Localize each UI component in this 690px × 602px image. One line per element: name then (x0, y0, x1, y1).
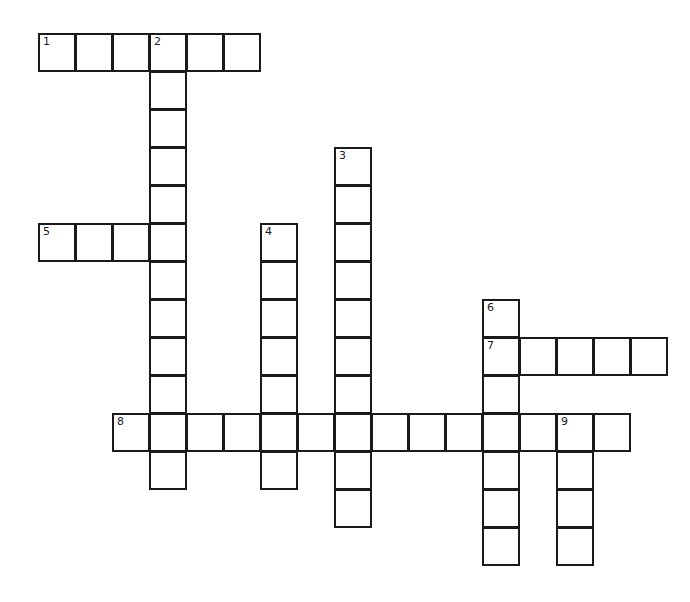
grid-cell[interactable] (445, 413, 483, 452)
clue-number: 1 (43, 36, 50, 48)
grid-cell[interactable] (260, 451, 298, 490)
grid-cell[interactable] (260, 261, 298, 300)
clue-number: 2 (154, 36, 161, 48)
clue-number: 7 (487, 340, 494, 352)
grid-cell[interactable] (186, 33, 224, 72)
grid-cell[interactable] (334, 337, 372, 376)
grid-cell[interactable] (334, 451, 372, 490)
grid-cell[interactable] (260, 299, 298, 338)
grid-cell[interactable] (186, 413, 224, 452)
grid-cell[interactable] (482, 413, 520, 452)
grid-cell[interactable] (112, 33, 150, 72)
grid-cell[interactable] (519, 337, 557, 376)
grid-cell[interactable] (482, 375, 520, 414)
grid-cell[interactable] (482, 451, 520, 490)
clue-number: 9 (561, 416, 568, 428)
grid-cell[interactable] (149, 185, 187, 224)
grid-cell[interactable] (630, 337, 668, 376)
grid-cell[interactable] (482, 489, 520, 528)
grid-cell[interactable] (408, 413, 446, 452)
grid-cell[interactable] (223, 413, 261, 452)
grid-cell[interactable] (334, 489, 372, 528)
grid-cell[interactable] (334, 413, 372, 452)
clue-number: 4 (265, 226, 272, 238)
grid-cell[interactable]: 2 (149, 33, 187, 72)
grid-cell[interactable] (75, 33, 113, 72)
grid-cell[interactable] (334, 375, 372, 414)
grid-cell[interactable]: 3 (334, 147, 372, 186)
grid-cell[interactable]: 4 (260, 223, 298, 262)
grid-cell[interactable] (149, 223, 187, 262)
grid-cell[interactable]: 7 (482, 337, 520, 376)
grid-cell[interactable]: 6 (482, 299, 520, 338)
grid-cell[interactable] (297, 413, 335, 452)
grid-cell[interactable] (334, 299, 372, 338)
grid-cell[interactable] (260, 375, 298, 414)
grid-cell[interactable] (149, 299, 187, 338)
grid-cell[interactable] (149, 71, 187, 110)
grid-cell[interactable] (149, 147, 187, 186)
grid-cell[interactable]: 8 (112, 413, 150, 452)
grid-cell[interactable] (334, 185, 372, 224)
grid-cell[interactable] (334, 261, 372, 300)
grid-cell[interactable] (556, 489, 594, 528)
clue-number: 3 (339, 150, 346, 162)
grid-cell[interactable] (149, 413, 187, 452)
grid-cell[interactable]: 5 (38, 223, 76, 262)
crossword-grid: 123456789 (0, 0, 690, 602)
grid-cell[interactable] (593, 413, 631, 452)
grid-cell[interactable] (556, 527, 594, 566)
grid-cell[interactable] (149, 109, 187, 148)
grid-cell[interactable]: 1 (38, 33, 76, 72)
grid-cell[interactable] (223, 33, 261, 72)
grid-cell[interactable] (260, 413, 298, 452)
grid-cell[interactable] (112, 223, 150, 262)
grid-cell[interactable] (556, 451, 594, 490)
clue-number: 5 (43, 226, 50, 238)
grid-cell[interactable] (149, 451, 187, 490)
clue-number: 8 (117, 416, 124, 428)
grid-cell[interactable] (149, 375, 187, 414)
grid-cell[interactable] (260, 337, 298, 376)
grid-cell[interactable] (334, 223, 372, 262)
grid-cell[interactable] (556, 337, 594, 376)
grid-cell[interactable] (149, 261, 187, 300)
grid-cell[interactable] (519, 413, 557, 452)
grid-cell[interactable] (482, 527, 520, 566)
clue-number: 6 (487, 302, 494, 314)
grid-cell[interactable] (75, 223, 113, 262)
grid-cell[interactable] (371, 413, 409, 452)
grid-cell[interactable] (149, 337, 187, 376)
grid-cell[interactable]: 9 (556, 413, 594, 452)
grid-cell[interactable] (593, 337, 631, 376)
